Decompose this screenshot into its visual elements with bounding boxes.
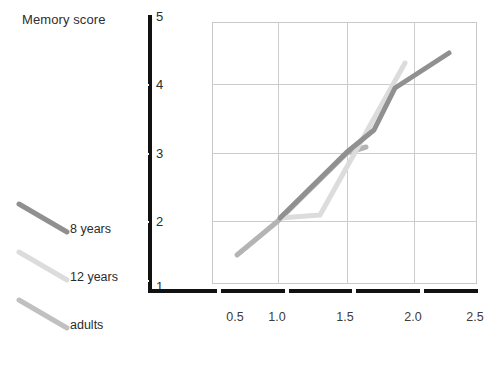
gridline-y-2 xyxy=(212,221,477,222)
memory-score-line-chart: Memory score 5 4 3 2 1 0.5 1.0 1.5 2.0 2… xyxy=(0,0,500,368)
y-tick-label-5: 5 xyxy=(156,9,163,24)
legend-item-adults: adults xyxy=(10,296,150,344)
legend-label-adults: adults xyxy=(70,318,103,332)
y-axis-title: Memory score xyxy=(22,12,106,27)
x-tick-label-2.5: 2.5 xyxy=(466,310,483,324)
y-tick-4 xyxy=(144,84,149,86)
gridline-y-4 xyxy=(212,84,477,85)
legend-label-12-years: 12 years xyxy=(70,270,118,284)
x-tick-1.0 xyxy=(285,289,289,293)
x-tick-label-1.0: 1.0 xyxy=(268,310,285,324)
y-tick-label-2: 2 xyxy=(156,214,163,229)
x-tick-2.0 xyxy=(420,289,424,293)
legend-swatch-adults-icon xyxy=(15,296,77,332)
legend-swatch-12-years-icon xyxy=(15,248,77,284)
x-tick-0.5 xyxy=(217,289,221,293)
x-axis xyxy=(148,289,478,293)
x-tick-1.5 xyxy=(352,289,356,293)
legend-item-8-years: 8 years xyxy=(10,200,150,248)
x-tick-label-0.5: 0.5 xyxy=(226,310,243,324)
x-tick-label-2.0: 2.0 xyxy=(404,310,421,324)
chart-legend: 8 years 12 years adults xyxy=(10,200,150,344)
legend-item-12-years: 12 years xyxy=(10,248,150,296)
gridline-y-3 xyxy=(212,153,477,154)
y-tick-label-3: 3 xyxy=(156,146,163,161)
legend-swatch-8-years-icon xyxy=(15,200,77,236)
y-tick-label-4: 4 xyxy=(156,77,163,92)
x-tick-label-1.5: 1.5 xyxy=(336,310,353,324)
legend-label-8-years: 8 years xyxy=(70,222,111,236)
y-tick-3 xyxy=(144,153,149,155)
